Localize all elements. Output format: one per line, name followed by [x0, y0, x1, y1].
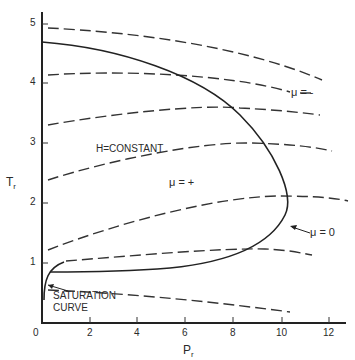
inversion-curve [42, 42, 288, 272]
x-tick-6: 6 [182, 327, 188, 338]
isenthalp-5 [48, 196, 348, 250]
x-tick-2: 2 [87, 327, 93, 338]
x-tick-10: 10 [276, 327, 287, 338]
y-tick-2: 2 [30, 196, 36, 207]
saturation-curve-label: SATURATION CURVE [53, 290, 116, 314]
x-tick-0: 0 [33, 327, 39, 338]
mu-zero-label: μ = 0 [310, 226, 335, 238]
saturation-label-line2: CURVE [53, 302, 116, 314]
isenthalp-3 [48, 107, 320, 125]
isenthalp-4 [48, 143, 332, 180]
isenthalp-curves [48, 28, 348, 312]
x-tick-4: 4 [134, 327, 140, 338]
x-tick-12: 12 [323, 327, 334, 338]
x-tick-8: 8 [230, 327, 236, 338]
y-tick-3: 3 [30, 136, 36, 147]
isenthalp-1 [48, 28, 322, 80]
h-constant-label: H=CONSTANT [96, 143, 163, 154]
y-tick-5: 5 [30, 17, 36, 28]
saturation-label-line1: SATURATION [53, 290, 116, 302]
mu-plus-label: μ = + [169, 176, 194, 188]
x-axis-label: Pr [183, 343, 194, 359]
y-tick-1: 1 [30, 256, 36, 267]
y-tick-4: 4 [30, 76, 36, 87]
isenthalp-2 [48, 73, 290, 92]
mu-zero-arrowhead [290, 225, 297, 230]
y-axis-label: Tr [6, 175, 16, 191]
isenthalp-6 [66, 249, 312, 261]
mu-minus-label: μ = - [291, 86, 314, 98]
